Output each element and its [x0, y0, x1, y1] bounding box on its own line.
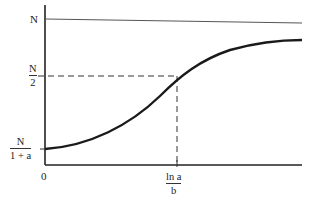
- x-label-inflection: ln a b: [166, 171, 181, 196]
- y-label-N: N: [30, 14, 38, 25]
- fraction-bar: [166, 183, 181, 184]
- half-N-denominator: 2: [30, 77, 35, 88]
- half-N-numerator: N: [29, 63, 37, 74]
- inflection-denominator: b: [171, 185, 176, 196]
- fraction-bar: [29, 75, 37, 76]
- asymptote-line-N: [45, 19, 302, 23]
- logistic-curve: [45, 40, 302, 149]
- y-label-half-N: N 2: [29, 63, 37, 88]
- inflection-numerator: ln a: [166, 171, 181, 182]
- logistic-diagram: [0, 0, 321, 201]
- x-label-origin: 0: [41, 171, 47, 182]
- fraction-bar: [10, 148, 31, 149]
- start-numerator: N: [17, 136, 25, 147]
- start-denominator: 1 + a: [10, 150, 31, 161]
- y-label-start: N 1 + a: [10, 136, 31, 161]
